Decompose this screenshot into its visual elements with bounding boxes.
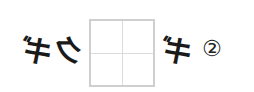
item-number: ②: [202, 38, 222, 60]
guide-line-horizontal: [91, 53, 153, 54]
mirrored-char-gi-left: ギ: [22, 36, 52, 66]
mirrored-char-gi-right: ギ: [162, 36, 192, 66]
answer-box[interactable]: [89, 19, 155, 87]
mirrored-char-ku: ク: [53, 36, 83, 66]
